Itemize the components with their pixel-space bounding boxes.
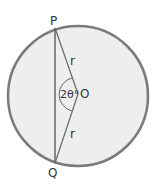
label-o: O (80, 88, 89, 100)
label-r-top: r (70, 55, 75, 67)
label-r-bottom: r (70, 128, 75, 140)
label-q: Q (48, 167, 57, 179)
label-p: P (50, 15, 57, 27)
label-angle: 2θ° (60, 89, 79, 100)
